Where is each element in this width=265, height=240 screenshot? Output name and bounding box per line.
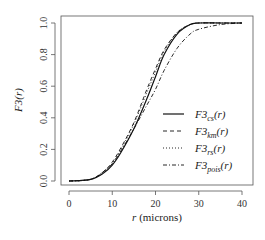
legend-label-km: F3km(r): [194, 125, 229, 140]
y-tick-label: 0.0: [38, 175, 49, 188]
curves: [69, 23, 242, 181]
x-tick-label: 30: [194, 198, 204, 209]
x-tick-label: 10: [107, 198, 117, 209]
curve-km: [69, 23, 242, 181]
x-tick-label: 0: [67, 198, 72, 209]
x-axis-label: r (microns): [132, 211, 182, 224]
y-tick-label: 0.4: [38, 112, 49, 125]
legend-label-cs: F3cs(r): [194, 108, 226, 123]
x-tick-label: 40: [237, 198, 247, 209]
y-axis-label: F3(r): [12, 88, 25, 113]
y-tick-label: 0.2: [38, 143, 49, 156]
legend-label-rs: F3rs(r): [194, 142, 225, 157]
chart: 010203040 0.00.20.40.60.81.0 r (microns)…: [0, 0, 265, 240]
y-tick-label: 1.0: [38, 17, 49, 30]
curve-rs: [69, 23, 242, 181]
curve-pois: [69, 23, 242, 181]
y-tick-label: 0.8: [38, 48, 49, 61]
legend: F3cs(r)F3km(r)F3rs(r)F3pois(r): [163, 108, 233, 174]
y-axis: 0.00.20.40.60.81.0: [38, 17, 55, 188]
curve-cs: [69, 23, 242, 181]
y-tick-label: 0.6: [38, 80, 49, 93]
legend-label-pois: F3pois(r): [194, 159, 233, 174]
x-axis: 010203040: [67, 191, 248, 209]
x-tick-label: 20: [151, 198, 161, 209]
